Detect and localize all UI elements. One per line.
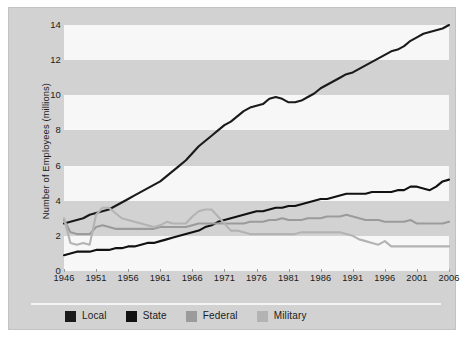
x-tick-mark [160,269,161,272]
chart-panel: Number of Employees (millions) 024681012… [8,7,456,330]
x-tick-label: 1991 [336,274,370,283]
series-line-local [64,25,449,224]
chart-figure: Number of Employees (millions) 024681012… [0,0,464,337]
x-tick-label: 1986 [304,274,338,283]
legend-divider [31,303,441,305]
plot-area [64,25,449,271]
x-tick-label: 1966 [175,274,209,283]
x-tick-mark [321,269,322,272]
y-tick-label: 6 [33,161,61,171]
x-tick-label: 1981 [272,274,306,283]
x-tick-label: 1971 [207,274,241,283]
legend-label: Local [82,311,107,321]
x-tick-mark [64,269,65,272]
lines-svg [64,25,449,271]
x-tick-mark [128,269,129,272]
y-tick-label: 2 [33,231,61,241]
x-tick-mark [257,269,258,272]
legend-item-federal[interactable]: Federal [186,311,238,322]
legend-swatch-icon [257,311,268,322]
chart-legend: LocalStateFederalMilitary [65,309,326,323]
x-tick-label: 2001 [400,274,434,283]
y-tick-label: 10 [33,90,61,100]
x-tick-label: 1951 [79,274,113,283]
y-tick-label: 12 [33,55,61,65]
x-tick-mark [417,269,418,272]
legend-item-state[interactable]: State [126,311,167,322]
x-tick-mark [449,269,450,272]
x-tick-mark [96,269,97,272]
x-tick-label: 2006 [432,274,464,283]
legend-swatch-icon [186,311,197,322]
legend-swatch-icon [65,311,76,322]
y-tick-label: 8 [33,125,61,135]
x-tick-mark [224,269,225,272]
series-lines [64,25,449,271]
legend-label: Military [274,311,307,321]
x-tick-mark [192,269,193,272]
x-tick-label: 1976 [240,274,274,283]
legend-item-military[interactable]: Military [257,311,307,322]
x-tick-label: 1956 [111,274,145,283]
x-axis-ticks: 1946195119561961196619711976198119861991… [64,274,449,290]
legend-label: State [143,311,167,321]
x-tick-label: 1996 [368,274,402,283]
x-tick-mark [385,269,386,272]
y-tick-label: 14 [33,20,61,30]
y-axis-ticks: 02468101214 [21,25,61,271]
x-tick-label: 1946 [47,274,81,283]
y-tick-label: 4 [33,196,61,206]
legend-item-local[interactable]: Local [65,311,107,322]
series-line-military [64,208,449,247]
legend-label: Federal [203,311,238,321]
legend-swatch-icon [126,311,137,322]
x-tick-mark [289,269,290,272]
x-tick-mark [353,269,354,272]
x-tick-label: 1961 [143,274,177,283]
